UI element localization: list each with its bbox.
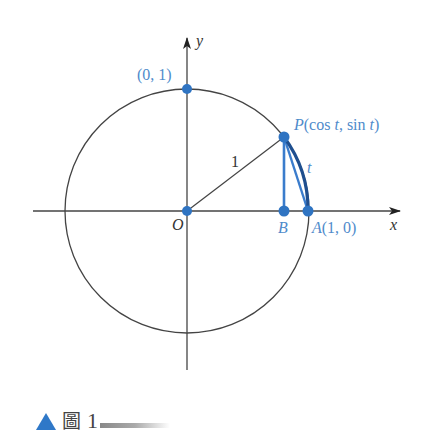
point-a <box>303 206 314 217</box>
unit-circle-diagram: y x O (0, 1) 1 t B A(1, 0) P(cos t, sin … <box>0 0 423 433</box>
point-p-label: P(cos t, sin t) <box>293 116 379 134</box>
arc-label: t <box>307 159 312 176</box>
point-a-label: A(1, 0) <box>311 219 356 237</box>
point-b <box>279 206 290 217</box>
caption-gradient-bar <box>100 423 170 428</box>
caption-figure-char: 圖 <box>62 412 81 431</box>
triangle-icon <box>36 413 56 430</box>
point-b-label: B <box>278 219 288 236</box>
point-origin <box>182 206 192 216</box>
point-top-label: (0, 1) <box>137 66 172 84</box>
origin-label: O <box>172 216 184 233</box>
y-axis-label: y <box>194 32 204 50</box>
point-a-coords: (1, 0) <box>322 219 357 237</box>
point-p <box>279 132 290 143</box>
radius-label: 1 <box>231 153 239 170</box>
x-axis-label: x <box>389 216 397 233</box>
caption-number: 1 <box>87 410 98 432</box>
figure-caption: 圖 1 <box>36 410 170 432</box>
point-top <box>182 84 192 94</box>
radius-segment <box>187 137 284 211</box>
